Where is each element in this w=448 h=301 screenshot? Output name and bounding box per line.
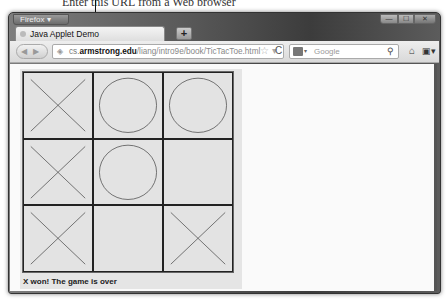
x-mark-icon: [24, 73, 92, 138]
reload-icon[interactable]: C: [275, 45, 282, 56]
x-mark-icon: [164, 206, 232, 271]
bookmarks-menu-icon[interactable]: ▣▾: [422, 44, 437, 59]
page-content: X won! The game is over: [10, 64, 437, 291]
x-mark-icon: [24, 140, 92, 205]
board-cell-1-1[interactable]: [93, 139, 163, 206]
o-mark-icon: [94, 73, 162, 138]
board-cell-0-2[interactable]: [163, 72, 233, 139]
board-cell-0-1[interactable]: [93, 72, 163, 139]
o-mark-icon: [164, 73, 232, 138]
search-placeholder: Google: [314, 47, 340, 56]
search-engine-icon[interactable]: [293, 47, 303, 56]
favicon-icon: [20, 31, 26, 37]
window-controls: — ☐ ✕: [380, 14, 436, 24]
board-cell-0-0[interactable]: [23, 72, 93, 139]
board-cell-1-0[interactable]: [23, 139, 93, 206]
tab-java-applet-demo[interactable]: Java Applet Demo: [15, 26, 165, 41]
navigation-toolbar: ◀ ▶ ◈ cs.armstrong.edu/liang/intro9e/boo…: [10, 41, 439, 63]
url-prefix: cs.: [69, 47, 79, 56]
game-status: X won! The game is over: [23, 277, 117, 286]
figure-caption: Enter this URL from a Web browser: [62, 0, 236, 10]
game-board: [22, 71, 234, 273]
board-cell-2-1[interactable]: [93, 205, 163, 272]
o-mark-icon: [94, 140, 162, 205]
window-right-edge: [434, 64, 437, 291]
firefox-menu-button[interactable]: Firefox ▾: [13, 14, 69, 25]
home-icon[interactable]: ⌂: [404, 44, 420, 59]
x-mark-icon: [24, 206, 92, 271]
url-bar[interactable]: ◈ cs.armstrong.edu/liang/intro9e/book/Ti…: [52, 44, 284, 59]
back-forward-buttons[interactable]: ◀ ▶: [16, 44, 48, 59]
board-cell-2-2[interactable]: [163, 205, 233, 272]
minimize-button[interactable]: —: [380, 14, 398, 24]
browser-window: Firefox ▾ — ☐ ✕ Java Applet Demo + ◀ ▶ ◈…: [8, 12, 441, 294]
search-icon[interactable]: ⚲: [387, 45, 394, 58]
board-cell-2-0[interactable]: [23, 205, 93, 272]
new-tab-button[interactable]: +: [176, 27, 192, 40]
close-button[interactable]: ✕: [414, 14, 436, 24]
search-input[interactable]: ▾ Google ⚲: [289, 44, 399, 59]
url-host: armstrong.edu: [79, 47, 136, 56]
url-path: /liang/intro9e/book/TicTacToe.html: [137, 47, 260, 56]
board-cell-1-2[interactable]: [163, 139, 233, 206]
chevron-down-icon[interactable]: ▾: [304, 45, 307, 58]
site-identity-icon[interactable]: ◈: [57, 48, 63, 55]
tictactoe-applet: X won! The game is over: [20, 69, 242, 289]
tab-title: Java Applet Demo: [30, 29, 99, 39]
maximize-button[interactable]: ☐: [398, 14, 414, 24]
